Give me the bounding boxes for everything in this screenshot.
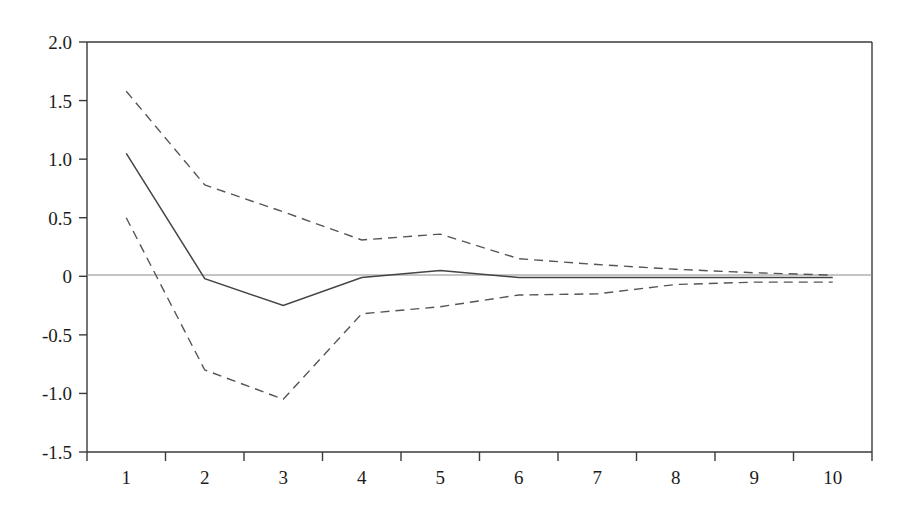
y-axis-tick-marks [79, 42, 87, 452]
x-tick-label: 7 [593, 468, 603, 487]
x-tick-label: 2 [200, 468, 210, 487]
x-tick-label: 6 [514, 468, 524, 487]
series-lower-confidence-band [126, 218, 833, 400]
y-tick-label: -0.5 [42, 325, 72, 344]
x-tick-label: 3 [279, 468, 289, 487]
series-upper-confidence-band [126, 91, 833, 275]
y-tick-label: 1.5 [48, 91, 72, 110]
x-tick-label: 8 [671, 468, 681, 487]
y-tick-label: -1.5 [42, 443, 72, 462]
x-tick-label: 1 [122, 468, 132, 487]
x-tick-label: 4 [357, 468, 367, 487]
plot-area [0, 0, 902, 516]
x-tick-label: 5 [436, 468, 446, 487]
y-tick-label: 0.5 [48, 208, 72, 227]
x-axis-tick-marks [87, 452, 872, 461]
y-tick-label: -1.0 [42, 384, 72, 403]
y-tick-label: 1.0 [48, 150, 72, 169]
y-tick-label: 2.0 [48, 33, 72, 52]
series-layer [126, 91, 833, 399]
y-tick-label: 0 [63, 267, 73, 286]
x-tick-label: 9 [750, 468, 760, 487]
x-tick-label: 10 [823, 468, 842, 487]
impulse-response-chart: 2.01.51.00.50-0.5-1.0-1.5 12345678910 [0, 0, 902, 516]
